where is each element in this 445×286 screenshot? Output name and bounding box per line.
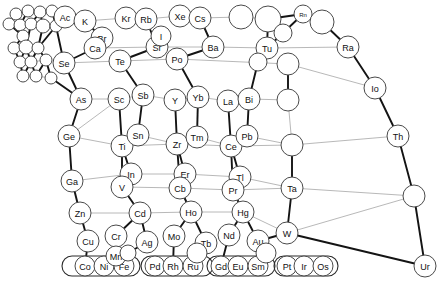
- node-circle[interactable]: [120, 245, 136, 261]
- node-unlabeled[interactable]: [25, 18, 37, 30]
- node-w[interactable]: W: [276, 222, 298, 244]
- node-pd[interactable]: Pd: [145, 256, 165, 276]
- node-ba[interactable]: Ba: [202, 36, 224, 58]
- node-i[interactable]: I: [151, 26, 171, 46]
- node-circle[interactable]: [22, 5, 34, 17]
- node-unlabeled[interactable]: [22, 5, 34, 17]
- node-circle[interactable]: [30, 70, 42, 82]
- node-cu[interactable]: Cu: [77, 230, 99, 252]
- node-cr[interactable]: Cr: [105, 225, 127, 247]
- node-kr[interactable]: Kr: [115, 7, 137, 29]
- node-yb[interactable]: Yb: [187, 86, 209, 108]
- element-graph[interactable]: AcKKrRbXeCsRnBrCaSrIBaTuRaSeTePoIoAsScSb…: [0, 0, 445, 286]
- node-v[interactable]: V: [111, 176, 133, 198]
- node-ge[interactable]: Ge: [58, 125, 80, 147]
- node-circle[interactable]: [25, 56, 37, 68]
- node-rb[interactable]: Rb: [135, 8, 157, 30]
- node-os[interactable]: Os: [313, 256, 333, 276]
- node-unlabeled[interactable]: [34, 6, 46, 18]
- node-sb[interactable]: Sb: [132, 84, 154, 106]
- node-unlabeled[interactable]: [281, 134, 303, 156]
- node-pb[interactable]: Pb: [236, 125, 258, 147]
- node-circle[interactable]: [36, 19, 50, 33]
- node-ra[interactable]: Ra: [337, 36, 359, 58]
- node-circle[interactable]: [3, 18, 15, 30]
- node-as[interactable]: As: [70, 88, 92, 110]
- node-circle[interactable]: [45, 72, 57, 84]
- node-circle[interactable]: [403, 185, 425, 207]
- node-unlabeled[interactable]: [120, 245, 136, 261]
- node-unlabeled[interactable]: [3, 18, 15, 30]
- node-zr[interactable]: Zr: [166, 133, 188, 155]
- node-circle[interactable]: [187, 243, 207, 263]
- node-po[interactable]: Po: [166, 48, 188, 70]
- node-ur[interactable]: Ur: [414, 255, 436, 277]
- node-sc[interactable]: Sc: [108, 88, 130, 110]
- node-unlabeled[interactable]: [36, 19, 50, 33]
- node-unlabeled[interactable]: [32, 42, 44, 54]
- node-cs[interactable]: Cs: [189, 7, 211, 29]
- node-tm[interactable]: Tm: [186, 126, 208, 148]
- node-th[interactable]: Th: [387, 125, 409, 147]
- node-pr[interactable]: Pr: [222, 179, 244, 201]
- node-circle[interactable]: [249, 53, 267, 71]
- node-rh[interactable]: Rh: [163, 256, 183, 276]
- node-y[interactable]: Y: [164, 89, 186, 111]
- node-circle[interactable]: [40, 54, 52, 66]
- node-circle[interactable]: [19, 40, 33, 54]
- node-circle[interactable]: [277, 89, 299, 111]
- node-unlabeled[interactable]: [256, 243, 276, 263]
- node-circle[interactable]: [34, 6, 46, 18]
- node-hg[interactable]: Hg: [232, 201, 254, 223]
- node-circle[interactable]: [274, 24, 292, 42]
- node-circle[interactable]: [256, 243, 276, 263]
- node-bi[interactable]: Bi: [238, 88, 260, 110]
- node-mo[interactable]: Mo: [163, 225, 185, 247]
- node-la[interactable]: La: [217, 90, 239, 112]
- node-nd[interactable]: Nd: [218, 224, 240, 246]
- node-ir[interactable]: Ir: [294, 256, 314, 276]
- node-unlabeled[interactable]: [19, 40, 33, 54]
- node-circle[interactable]: [277, 53, 299, 75]
- node-circle[interactable]: [8, 42, 20, 54]
- node-circle[interactable]: [17, 70, 29, 82]
- node-unlabeled[interactable]: [274, 24, 292, 42]
- node-unlabeled[interactable]: [14, 19, 26, 31]
- node-circle[interactable]: [14, 56, 26, 68]
- node-unlabeled[interactable]: [8, 42, 20, 54]
- node-unlabeled[interactable]: [310, 10, 334, 34]
- node-ga[interactable]: Ga: [61, 170, 83, 192]
- node-rn[interactable]: Rn: [294, 5, 312, 23]
- node-te[interactable]: Te: [109, 50, 131, 72]
- node-xe[interactable]: Xe: [169, 5, 191, 27]
- node-ac[interactable]: Ac: [54, 6, 76, 28]
- node-unlabeled[interactable]: [277, 53, 299, 75]
- node-io[interactable]: Io: [364, 77, 386, 99]
- node-eu[interactable]: Eu: [228, 256, 248, 276]
- node-unlabeled[interactable]: [45, 72, 57, 84]
- node-k[interactable]: K: [74, 10, 96, 32]
- node-unlabeled[interactable]: [14, 56, 26, 68]
- node-unlabeled[interactable]: [249, 53, 267, 71]
- node-unlabeled[interactable]: [229, 5, 253, 29]
- node-se[interactable]: Se: [53, 52, 75, 74]
- node-unlabeled[interactable]: [187, 243, 207, 263]
- node-ta[interactable]: Ta: [281, 177, 303, 199]
- node-circle[interactable]: [14, 19, 26, 31]
- node-cb[interactable]: Cb: [169, 177, 191, 199]
- node-sn[interactable]: Sn: [127, 124, 149, 146]
- node-co[interactable]: Co: [75, 256, 95, 276]
- node-circle[interactable]: [310, 10, 334, 34]
- node-circle[interactable]: [25, 18, 37, 30]
- node-unlabeled[interactable]: [30, 70, 42, 82]
- node-ho[interactable]: Ho: [180, 201, 202, 223]
- node-unlabeled[interactable]: [40, 54, 52, 66]
- node-ag[interactable]: Ag: [136, 231, 158, 253]
- node-cd[interactable]: Cd: [129, 202, 151, 224]
- node-unlabeled[interactable]: [277, 89, 299, 111]
- node-ca[interactable]: Ca: [84, 37, 106, 59]
- node-unlabeled[interactable]: [403, 185, 425, 207]
- node-circle[interactable]: [229, 5, 253, 29]
- node-unlabeled[interactable]: [17, 70, 29, 82]
- node-circle[interactable]: [281, 134, 303, 156]
